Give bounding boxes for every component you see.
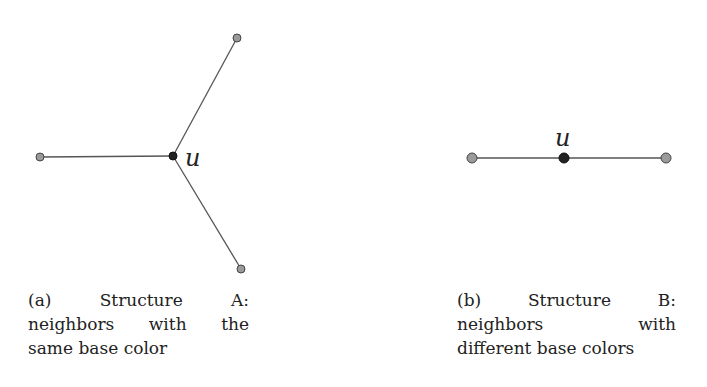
neighbor-node-left <box>467 153 477 163</box>
structure-a-graph: u <box>36 34 245 273</box>
center-node-label: u <box>555 124 570 152</box>
edge-u-bottom <box>173 156 241 269</box>
center-node-u <box>559 153 569 163</box>
edge-u-left <box>40 156 173 157</box>
caption-structure-a: (a) Structure A: neighbors with the same… <box>28 288 249 360</box>
structure-b-graph: u <box>467 124 671 163</box>
edge-u-top <box>173 38 237 156</box>
caption-structure-b: (b) Structure B: neighbors with differen… <box>457 288 676 360</box>
caption-line: same base color <box>28 336 249 360</box>
center-node-u <box>169 152 177 160</box>
neighbor-node-top <box>233 34 241 42</box>
caption-line: (b) Structure B: <box>457 288 676 312</box>
center-node-label: u <box>185 144 200 172</box>
caption-line: different base colors <box>457 336 676 360</box>
neighbor-node-left <box>36 153 44 161</box>
caption-line: neighbors with the <box>28 312 249 336</box>
neighbor-node-bottom <box>237 265 245 273</box>
neighbor-node-right <box>661 153 671 163</box>
caption-line: (a) Structure A: <box>28 288 249 312</box>
caption-line: neighbors with <box>457 312 676 336</box>
